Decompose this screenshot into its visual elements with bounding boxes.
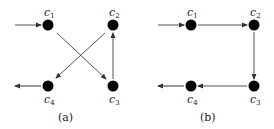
node-label-c4: c4 — [187, 93, 198, 107]
node-c4 — [43, 81, 54, 92]
panel-b: c1 c2 c3 c4 (b) — [158, 6, 261, 124]
node-label-c1: c1 — [187, 6, 198, 20]
panel-caption-a: (a) — [58, 111, 73, 124]
node-c3 — [249, 81, 260, 92]
node-label-c1: c1 — [44, 6, 55, 20]
node-label-c3: c3 — [109, 93, 120, 107]
node-c4 — [186, 81, 197, 92]
panel-a: c1 c2 c3 c4 (a) — [15, 6, 120, 124]
node-c1 — [186, 20, 197, 31]
node-label-c4: c4 — [44, 93, 55, 107]
diagram-canvas: c1 c2 c3 c4 (a) c1 c2 c3 c4 (b) — [0, 0, 274, 129]
node-label-c2: c2 — [250, 6, 261, 20]
node-c3 — [108, 81, 119, 92]
node-label-c3: c3 — [250, 93, 261, 107]
node-label-c2: c2 — [109, 6, 120, 20]
node-c2 — [108, 20, 119, 31]
node-c2 — [249, 20, 260, 31]
node-c1 — [43, 20, 54, 31]
panel-caption-b: (b) — [200, 111, 216, 124]
edge-c1-c3 — [57, 33, 106, 79]
